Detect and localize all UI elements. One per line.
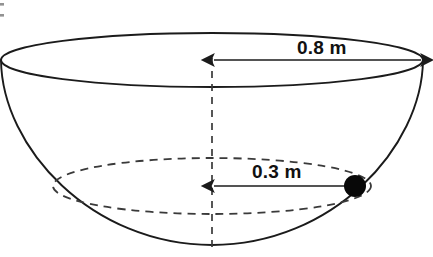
ball-radius-label: 0.3 m bbox=[252, 161, 302, 182]
bowl-diagram-figure: 0.8 m 0.3 m bbox=[0, 0, 433, 257]
corner-artifact-mark bbox=[0, 3, 4, 17]
rim-radius-label: 0.8 m bbox=[297, 37, 347, 58]
ball-marker bbox=[344, 175, 366, 197]
diagram-canvas: 0.8 m 0.3 m bbox=[0, 0, 433, 257]
